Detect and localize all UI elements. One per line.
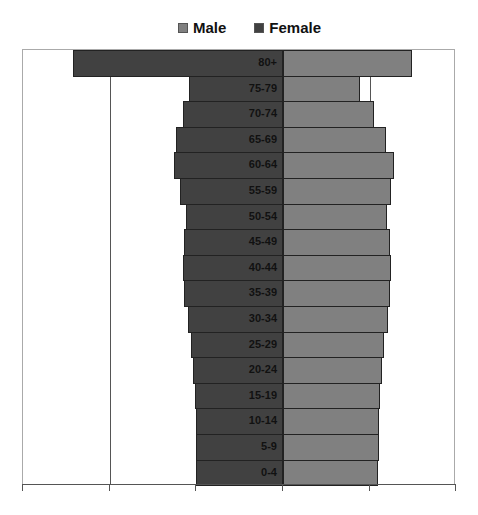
legend-label-male: Male: [193, 19, 226, 36]
x-axis-tick: [22, 484, 23, 491]
age-group-label: 20-24: [217, 363, 277, 375]
age-group-label: 45-49: [217, 235, 277, 247]
age-group-label: 25-29: [217, 338, 277, 350]
x-axis-tick: [455, 484, 456, 491]
age-group-label: 75-79: [217, 82, 277, 94]
female-swatch-icon: [254, 23, 264, 33]
age-group-label: 40-44: [217, 261, 277, 273]
male-bar: [283, 460, 378, 487]
x-axis-tick: [369, 484, 370, 491]
male-bar: [283, 434, 379, 461]
age-group-label: 15-19: [217, 389, 277, 401]
age-group-label: 65-69: [217, 133, 277, 145]
male-bar: [283, 76, 360, 103]
male-bar: [283, 152, 394, 179]
male-swatch-icon: [178, 23, 188, 33]
male-bar: [283, 178, 391, 205]
male-bar: [283, 229, 390, 256]
male-bar: [283, 306, 388, 333]
legend-item-female: Female: [254, 19, 321, 36]
x-axis-tick: [282, 484, 283, 491]
male-bar: [283, 50, 412, 77]
age-group-label: 55-59: [217, 184, 277, 196]
male-bar: [283, 332, 384, 359]
male-bar: [283, 280, 390, 307]
x-axis: [22, 484, 456, 485]
male-bar: [283, 357, 382, 384]
gridline: [110, 50, 111, 484]
age-group-label: 50-54: [217, 210, 277, 222]
male-bar: [283, 127, 386, 154]
male-bar: [283, 383, 380, 410]
age-group-label: 30-34: [217, 312, 277, 324]
legend-label-female: Female: [269, 19, 321, 36]
male-bar: [283, 255, 391, 282]
age-group-label: 70-74: [217, 107, 277, 119]
age-group-label: 5-9: [217, 440, 277, 452]
x-axis-tick: [109, 484, 110, 491]
male-bar: [283, 408, 379, 435]
age-group-label: 35-39: [217, 286, 277, 298]
age-group-label: 10-14: [217, 414, 277, 426]
age-group-label: 60-64: [217, 158, 277, 170]
plot-area: 80+75-7970-7465-6960-6455-5950-5445-4940…: [22, 49, 455, 484]
legend: Male Female: [178, 19, 349, 36]
legend-item-male: Male: [178, 19, 226, 36]
age-group-label: 0-4: [217, 466, 277, 478]
male-bar: [283, 101, 374, 128]
male-bar: [283, 204, 387, 231]
x-axis-tick: [195, 484, 196, 491]
age-group-label: 80+: [217, 56, 277, 68]
